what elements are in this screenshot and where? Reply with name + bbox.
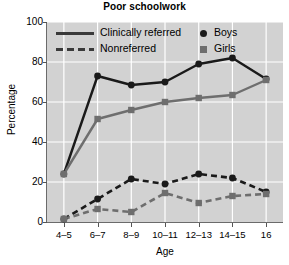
- x-tick-mark: [131, 223, 132, 227]
- data-point-square: [263, 77, 269, 83]
- data-point-square: [196, 95, 202, 101]
- data-point-circle: [162, 181, 169, 188]
- data-point-circle: [94, 196, 101, 203]
- legend-label-nonreferred: Nonreferred: [100, 42, 156, 54]
- chart-figure: Poor schoolwork Percentage 020406080100 …: [0, 0, 289, 265]
- y-tick-label: 0: [15, 217, 43, 227]
- data-point-circle: [128, 176, 135, 183]
- y-tick-mark: [43, 182, 47, 183]
- y-tick-label: 40: [15, 137, 43, 147]
- y-tick-mark: [43, 102, 47, 103]
- x-tick-mark: [232, 223, 233, 227]
- x-tick-label: 8–9: [123, 229, 139, 240]
- solid-line-swatch-icon: [56, 32, 94, 35]
- data-point-circle: [195, 61, 202, 68]
- data-point-circle: [229, 175, 236, 182]
- data-point-square: [128, 209, 134, 215]
- legend-label-clinically-referred: Clinically referred: [100, 26, 181, 38]
- data-point-square: [128, 107, 134, 113]
- x-tick-mark: [98, 223, 99, 227]
- x-tick-label: 16: [261, 229, 272, 240]
- y-tick-label: 20: [15, 177, 43, 187]
- x-tick-mark: [165, 223, 166, 227]
- data-point-square: [162, 99, 168, 105]
- y-tick-mark: [43, 62, 47, 63]
- x-tick-mark: [266, 223, 267, 227]
- legend-label-boys: Boys: [214, 26, 237, 38]
- x-tick-label: 4–5: [56, 229, 72, 240]
- x-tick-label: 12–13: [185, 229, 211, 240]
- y-tick-label: 80: [15, 57, 43, 67]
- data-point-square: [229, 92, 235, 98]
- data-point-square: [162, 190, 168, 196]
- data-point-square: [94, 116, 100, 122]
- x-tick-mark: [199, 223, 200, 227]
- y-tick-label: 100: [15, 17, 43, 27]
- y-tick-label: 60: [15, 97, 43, 107]
- x-tick-label: 14–15: [219, 229, 245, 240]
- circle-marker-icon: [200, 30, 207, 37]
- chart-title: Poor schoolwork: [0, 1, 289, 12]
- dashed-line-swatch-icon: [56, 48, 94, 51]
- chart-legend: Clinically referred Nonreferred Boys Gir…: [56, 26, 276, 60]
- y-tick-mark: [43, 222, 47, 223]
- x-axis-title: Age: [47, 246, 283, 257]
- x-tick-label: 6–7: [90, 229, 106, 240]
- data-point-circle: [162, 79, 169, 86]
- legend-label-girls: Girls: [214, 42, 236, 54]
- y-tick-mark: [43, 142, 47, 143]
- data-point-square: [196, 200, 202, 206]
- data-point-square: [94, 206, 100, 212]
- y-axis-tick-labels: 020406080100: [12, 22, 43, 222]
- data-point-square: [229, 193, 235, 199]
- x-tick-label: 10–11: [152, 229, 178, 240]
- data-point-square: [61, 171, 67, 177]
- data-point-circle: [128, 82, 135, 89]
- square-marker-icon: [200, 46, 207, 53]
- data-point-circle: [195, 171, 202, 178]
- y-tick-mark: [43, 22, 47, 23]
- data-point-circle: [94, 73, 101, 80]
- data-point-square: [61, 216, 67, 222]
- data-point-square: [263, 191, 269, 197]
- x-tick-mark: [64, 223, 65, 227]
